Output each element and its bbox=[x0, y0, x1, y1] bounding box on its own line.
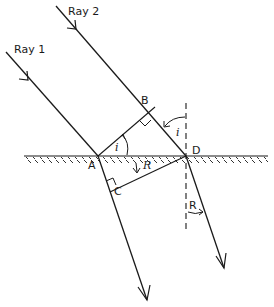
refraction-diagram: Ray 1 Ray 2 A B C D i i R R bbox=[0, 0, 274, 307]
incident-ray-1 bbox=[6, 52, 98, 156]
incident-ray-2 bbox=[56, 6, 186, 156]
refracted-ray-1 bbox=[98, 156, 150, 300]
right-angle-mark-B bbox=[139, 120, 151, 126]
angle-arc-i-at-D bbox=[165, 117, 185, 126]
incident-wavefront-AB bbox=[98, 107, 155, 156]
refracted-ray-2 bbox=[186, 156, 226, 268]
arrowhead-icon bbox=[120, 134, 125, 139]
label-point-d: D bbox=[192, 145, 200, 156]
label-angle-i-at-d: i bbox=[176, 127, 180, 138]
label-point-c: C bbox=[114, 186, 122, 197]
label-point-a: A bbox=[88, 160, 96, 171]
arrowhead-icon bbox=[199, 209, 203, 215]
label-angle-r-at-a: R bbox=[143, 160, 151, 171]
angle-arrow-R-at-A bbox=[136, 163, 137, 172]
label-ray-1: Ray 1 bbox=[14, 44, 45, 55]
label-angle-i-at-a: i bbox=[115, 142, 119, 153]
label-angle-r-at-d: R bbox=[189, 200, 197, 211]
label-point-b: B bbox=[141, 95, 149, 106]
label-ray-2: Ray 2 bbox=[68, 6, 99, 17]
